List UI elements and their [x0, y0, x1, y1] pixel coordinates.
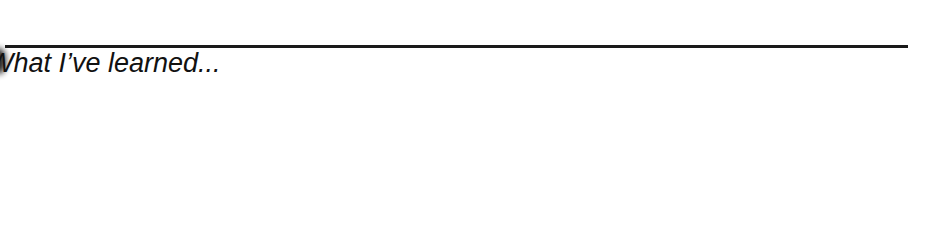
- section-heading: What I’ve learned...: [0, 47, 221, 79]
